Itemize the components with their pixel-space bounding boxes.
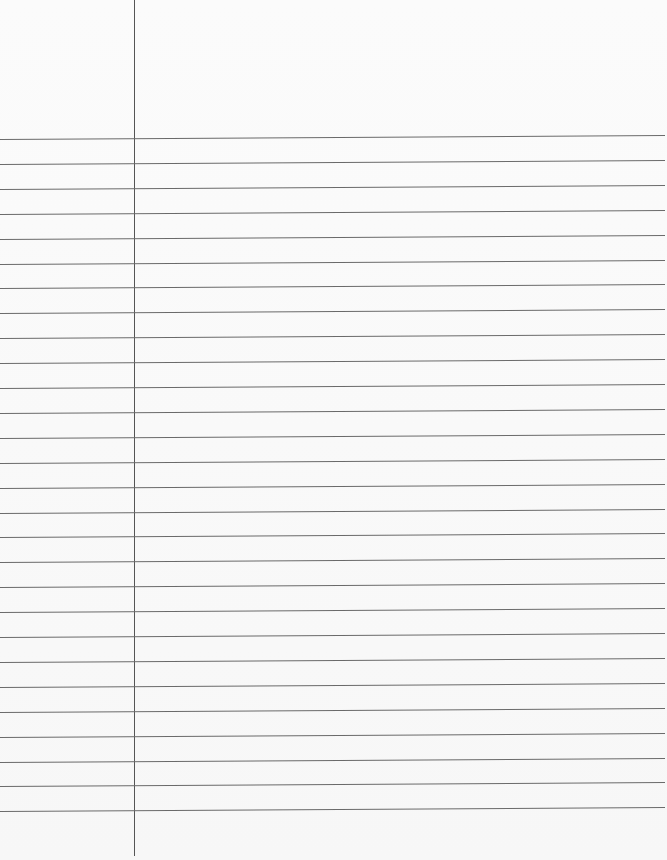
ruled-line: [0, 733, 665, 738]
ruled-line: [0, 459, 665, 464]
notebook-page: [0, 0, 667, 860]
ruled-line: [0, 658, 665, 663]
ruled-line: [0, 583, 665, 588]
ruled-line: [0, 708, 665, 713]
margin-line: [134, 0, 135, 856]
ruled-line: [0, 284, 665, 289]
ruled-line: [0, 160, 665, 165]
ruled-line: [0, 384, 665, 389]
ruled-line: [0, 359, 665, 364]
ruled-line: [0, 608, 665, 613]
ruled-line: [0, 633, 665, 638]
ruled-line: [0, 409, 665, 414]
ruled-line: [0, 807, 665, 812]
ruled-line: [0, 135, 665, 140]
ruled-line: [0, 309, 665, 314]
ruled-line: [0, 210, 665, 215]
ruled-line: [0, 533, 665, 538]
ruled-line: [0, 334, 665, 339]
ruled-line: [0, 683, 665, 688]
ruled-line: [0, 434, 665, 439]
ruled-line: [0, 484, 665, 489]
ruled-line: [0, 757, 665, 762]
ruled-line: [0, 259, 665, 264]
ruled-line: [0, 782, 665, 787]
ruled-line: [0, 558, 665, 563]
ruled-line: [0, 235, 665, 240]
ruled-line: [0, 508, 665, 513]
ruled-line: [0, 185, 665, 190]
